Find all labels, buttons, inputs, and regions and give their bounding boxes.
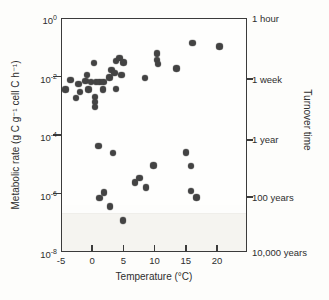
data-point xyxy=(120,217,126,223)
x-axis-label: Temperature (°C) xyxy=(61,271,247,282)
data-point xyxy=(118,72,124,78)
right-tick-label: 1 year xyxy=(252,134,278,145)
data-point xyxy=(100,86,106,92)
data-point xyxy=(136,175,142,181)
x-tick-label: 10 xyxy=(143,255,167,266)
x-tick-label: 0 xyxy=(80,255,104,266)
data-point xyxy=(101,189,107,195)
y-tick-label: 10-6 xyxy=(28,188,57,200)
data-point xyxy=(120,59,126,65)
y-tick-label: 10-4 xyxy=(28,129,57,141)
data-point xyxy=(183,149,189,155)
scatter-plot-figure: Metabolic rate (g C g⁻¹ cell C h⁻¹) Temp… xyxy=(0,0,329,300)
scan-artifact-stripe xyxy=(62,205,246,214)
x-axis-tick xyxy=(123,245,125,251)
data-point xyxy=(113,86,119,92)
right-tick-label: 100 years xyxy=(252,192,294,203)
data-point xyxy=(216,43,222,49)
data-point xyxy=(77,89,83,95)
data-point xyxy=(75,81,81,87)
data-point xyxy=(92,104,98,110)
y-axis-label: Metabolic rate (g C g⁻¹ cell C h⁻¹) xyxy=(10,15,24,255)
data-point xyxy=(100,79,106,85)
x-axis-tick xyxy=(91,245,93,251)
data-point xyxy=(173,65,179,71)
data-point xyxy=(95,143,101,149)
x-axis-tick xyxy=(216,245,218,251)
x-tick-label: -5 xyxy=(49,255,73,266)
x-axis-tick xyxy=(154,245,156,251)
data-point xyxy=(150,162,156,168)
right-tick-label: 1 hour xyxy=(252,13,279,24)
x-axis-tick xyxy=(185,245,187,251)
data-point xyxy=(143,184,149,190)
y-tick-label: 100 xyxy=(28,12,57,24)
right-tick-label: 1 week xyxy=(252,74,282,85)
data-point xyxy=(85,86,91,92)
right-axis-label: Turnover time xyxy=(299,60,313,180)
y-tick-label: 10-2 xyxy=(28,71,57,83)
data-point xyxy=(111,70,117,76)
x-tick-label: 15 xyxy=(174,255,198,266)
data-point xyxy=(62,86,68,92)
x-tick-label: 5 xyxy=(111,255,135,266)
data-point xyxy=(193,194,199,200)
data-point xyxy=(189,40,195,46)
x-tick-label: 20 xyxy=(205,255,229,266)
data-point xyxy=(67,77,73,83)
data-point xyxy=(188,188,194,194)
right-tick-label: 10,000 years xyxy=(252,247,307,258)
